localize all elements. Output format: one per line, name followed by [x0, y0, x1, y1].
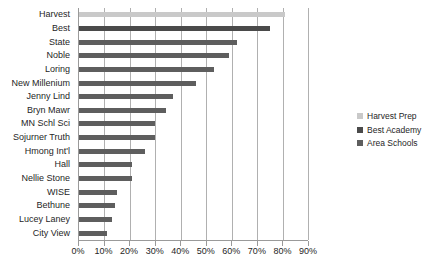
bar [79, 135, 155, 140]
chart-legend: Harvest PrepBest AcademyArea Schools [357, 112, 421, 148]
x-axis-tick-label: 40% [171, 247, 189, 256]
y-axis-label: Bryn Mawr [0, 103, 74, 117]
bar-row [79, 144, 308, 158]
bar-row [79, 49, 308, 63]
x-axis-tick-label: 10% [95, 247, 113, 256]
gridline [308, 8, 309, 240]
y-axis-label: Nellie Stone [0, 172, 74, 186]
y-axis-label: Bethune [0, 199, 74, 213]
y-axis-label: Harvest [0, 8, 74, 22]
bar-series-group [79, 8, 308, 240]
bar [79, 67, 214, 72]
bar-row [79, 22, 308, 36]
y-axis-label: Jenny Lind [0, 90, 74, 104]
x-axis-tick-label: 90% [299, 247, 317, 256]
bar [79, 26, 270, 31]
x-axis-tick-label: 80% [273, 247, 291, 256]
bar [79, 81, 196, 86]
y-axis-label: MN Schl Sci [0, 117, 74, 131]
bar-row [79, 103, 308, 117]
bar [79, 108, 166, 113]
y-axis-label: State [0, 35, 74, 49]
bar-row [79, 185, 308, 199]
bar-row [79, 199, 308, 213]
y-axis-label: Lucey Laney [0, 213, 74, 227]
y-axis-category-labels: HarvestBestStateNobleLoringNew Millenium… [0, 8, 74, 240]
y-axis-label: Noble [0, 49, 74, 63]
bar [79, 231, 107, 236]
plot-area [78, 8, 308, 240]
bar [79, 190, 117, 195]
bar-row [79, 213, 308, 227]
bar-row [79, 8, 308, 22]
bar-row [79, 90, 308, 104]
y-axis-label: WISE [0, 185, 74, 199]
bar-row [79, 158, 308, 172]
legend-item[interactable]: Best Academy [357, 126, 421, 135]
y-axis-label: Loring [0, 63, 74, 77]
legend-label: Harvest Prep [367, 112, 417, 121]
bar [79, 162, 132, 167]
legend-item[interactable]: Area Schools [357, 139, 421, 148]
bar-row [79, 63, 308, 77]
bar [79, 203, 115, 208]
y-axis-label: Hall [0, 158, 74, 172]
bar-row [79, 117, 308, 131]
bar-chart: HarvestBestStateNobleLoringNew Millenium… [0, 0, 440, 270]
bar [79, 217, 112, 222]
legend-label: Area Schools [367, 139, 418, 148]
legend-swatch-icon [357, 127, 363, 133]
legend-swatch-icon [357, 113, 363, 119]
bar-row [79, 226, 308, 240]
y-axis-label: Sojurner Truth [0, 131, 74, 145]
y-axis-label: Hmong Int'l [0, 144, 74, 158]
y-axis-label: New Millenium [0, 76, 74, 90]
bar-row [79, 131, 308, 145]
bar-row [79, 35, 308, 49]
bar-row [79, 172, 308, 186]
x-axis-tick-label: 70% [248, 247, 266, 256]
bar-row [79, 76, 308, 90]
bar [79, 94, 173, 99]
x-axis-tick-label: 0% [71, 247, 84, 256]
bar [79, 12, 285, 17]
y-axis-label: Best [0, 22, 74, 36]
x-axis-tick-labels: 0%10%20%30%40%50%60%70%80%90% [78, 247, 308, 261]
x-axis-tick-label: 50% [197, 247, 215, 256]
bar [79, 40, 237, 45]
x-axis-tick-label: 60% [222, 247, 240, 256]
legend-item[interactable]: Harvest Prep [357, 112, 421, 121]
bar [79, 121, 155, 126]
bar [79, 149, 145, 154]
x-axis-tick-label: 30% [146, 247, 164, 256]
legend-label: Best Academy [367, 126, 421, 135]
bar [79, 176, 132, 181]
legend-swatch-icon [357, 140, 363, 146]
y-axis-label: City View [0, 226, 74, 240]
x-axis-tick-label: 20% [120, 247, 138, 256]
bar [79, 53, 229, 58]
